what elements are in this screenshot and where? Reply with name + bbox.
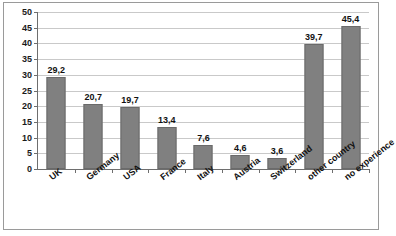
y-axis-tick-label: 50 bbox=[22, 8, 32, 17]
y-axis-tick-mark bbox=[34, 169, 38, 170]
y-axis-tick-label: 15 bbox=[22, 117, 32, 126]
bar-value-label: 29,2 bbox=[48, 66, 66, 75]
y-axis-tick-label: 45 bbox=[22, 23, 32, 32]
bar-slot: 3,6 bbox=[259, 12, 296, 169]
y-axis-tick-label: 40 bbox=[22, 39, 32, 48]
bar-value-label: 4,6 bbox=[234, 144, 247, 153]
bar-value-label: 19,7 bbox=[121, 96, 139, 105]
y-axis-tick-label: 35 bbox=[22, 55, 32, 64]
bar-value-label: 20,7 bbox=[84, 93, 102, 102]
y-axis-tick-label: 10 bbox=[22, 133, 32, 142]
x-axis-tick-mark bbox=[75, 169, 76, 173]
bar[interactable] bbox=[120, 107, 139, 169]
bar-value-label: 7,6 bbox=[197, 134, 210, 143]
x-axis-tick-mark bbox=[185, 169, 186, 173]
y-axis-tick-label: 0 bbox=[27, 165, 32, 174]
bar[interactable] bbox=[47, 77, 66, 169]
bar-chart-plot-area: 0510152025303540455029,220,719,713,47,64… bbox=[37, 12, 369, 170]
y-axis-tick-label: 25 bbox=[22, 86, 32, 95]
x-axis-tick-mark bbox=[148, 169, 149, 173]
bar-slot: 13,4 bbox=[148, 12, 185, 169]
bar-value-label: 39,7 bbox=[305, 33, 323, 42]
x-axis-tick-mark bbox=[259, 169, 260, 173]
y-axis-tick-label: 5 bbox=[27, 149, 32, 158]
bar-value-label: 3,6 bbox=[271, 147, 284, 156]
x-axis-tick-mark bbox=[332, 169, 333, 173]
bar-slot: 19,7 bbox=[112, 12, 149, 169]
y-axis-tick-label: 20 bbox=[22, 102, 32, 111]
bar-slot: 20,7 bbox=[75, 12, 112, 169]
bar-slot: 39,7 bbox=[295, 12, 332, 169]
x-axis-tick-mark bbox=[112, 169, 113, 173]
bar-value-label: 45,4 bbox=[342, 15, 360, 24]
x-axis-tick-mark bbox=[369, 169, 370, 173]
bar-value-label: 13,4 bbox=[158, 116, 176, 125]
bar-slot: 4,6 bbox=[222, 12, 259, 169]
x-axis-tick-mark bbox=[295, 169, 296, 173]
chart-frame: 0510152025303540455029,220,719,713,47,64… bbox=[3, 2, 379, 230]
bar-slot: 7,6 bbox=[185, 12, 222, 169]
bar-slot: 29,2 bbox=[38, 12, 75, 169]
y-axis-tick-label: 30 bbox=[22, 70, 32, 79]
x-axis-tick-mark bbox=[222, 169, 223, 173]
bar[interactable] bbox=[84, 104, 103, 169]
